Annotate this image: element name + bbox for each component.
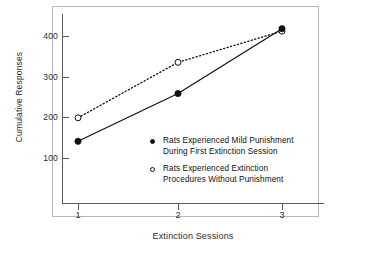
legend-label-mild-punishment-line2: During First Extinction Session xyxy=(163,147,325,158)
data-point-open-1 xyxy=(75,115,81,121)
series-mild-punishment-markers xyxy=(75,26,285,145)
legend-label-without-punishment-line1: Rats Experienced Extinction xyxy=(163,164,325,175)
series-mild-punishment-line xyxy=(78,29,282,142)
data-point-open-2 xyxy=(175,59,181,65)
data-point-filled-1 xyxy=(75,138,81,144)
series-without-punishment-markers xyxy=(75,28,285,121)
legend-entry-mild-punishment: Rats Experienced Mild Punishment During … xyxy=(150,136,325,157)
data-point-filled-3 xyxy=(279,26,285,32)
plot-area xyxy=(0,0,369,255)
legend-label-without-punishment-line2: Procedures Without Punishment xyxy=(163,175,325,186)
legend-entry-without-punishment: Rats Experienced Extinction Procedures W… xyxy=(150,164,325,185)
legend-label-mild-punishment-line1: Rats Experienced Mild Punishment xyxy=(163,136,325,147)
filled-circle-icon xyxy=(150,139,155,144)
chart-legend: Rats Experienced Mild Punishment During … xyxy=(150,136,325,192)
data-point-filled-2 xyxy=(175,90,181,96)
chart-figure: 400 300 200 100 1 2 3 Cumulative Respons… xyxy=(0,0,369,255)
open-circle-icon xyxy=(150,167,155,172)
series-without-punishment-line xyxy=(78,31,282,118)
